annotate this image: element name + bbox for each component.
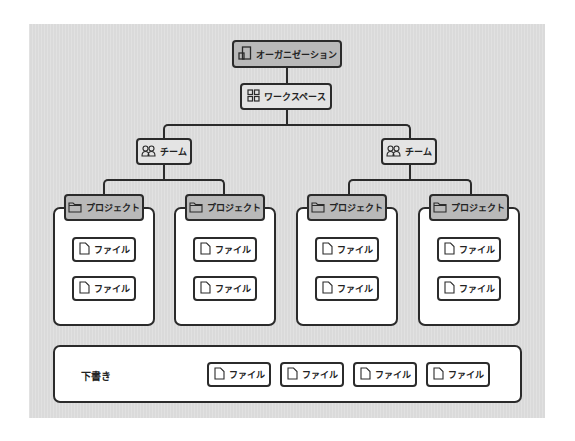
file-label: ファイル: [459, 243, 495, 256]
file-icon: [322, 281, 333, 296]
organization-label: オーガニゼーション: [256, 48, 337, 61]
file-label: ファイル: [337, 243, 373, 256]
file-node[interactable]: ファイル: [315, 237, 379, 262]
file-label: ファイル: [229, 368, 265, 381]
draft-file-node[interactable]: ファイル: [353, 362, 417, 387]
connector-workspace-down: [286, 109, 288, 125]
file-node[interactable]: ファイル: [315, 276, 379, 301]
team-label: チーム: [405, 145, 432, 158]
folder-icon: [311, 201, 325, 215]
file-icon: [79, 242, 90, 257]
file-icon: [287, 367, 298, 382]
project-label: プロジェクト: [207, 201, 261, 214]
file-icon: [433, 367, 444, 382]
file-node[interactable]: ファイル: [437, 237, 501, 262]
file-label: ファイル: [302, 368, 338, 381]
organization-icon: [238, 46, 252, 62]
file-node[interactable]: ファイル: [72, 237, 136, 262]
project-node-1[interactable]: プロジェクト: [64, 194, 144, 221]
project-container-3: [296, 207, 398, 326]
file-label: ファイル: [215, 243, 251, 256]
draft-file-node[interactable]: ファイル: [280, 362, 344, 387]
connector-teams-bar: [163, 124, 411, 140]
file-node[interactable]: ファイル: [193, 276, 257, 301]
file-node[interactable]: ファイル: [437, 276, 501, 301]
file-label: ファイル: [94, 243, 130, 256]
drafts-label: 下書き: [81, 368, 111, 383]
project-node-4[interactable]: プロジェクト: [429, 194, 509, 221]
draft-file-node[interactable]: ファイル: [426, 362, 490, 387]
project-node-3[interactable]: プロジェクト: [307, 194, 387, 221]
file-label: ファイル: [459, 282, 495, 295]
file-label: ファイル: [215, 282, 251, 295]
file-icon: [214, 367, 225, 382]
workspace-label: ワークスペース: [264, 90, 326, 103]
team-label: チーム: [160, 145, 187, 158]
team-node-2[interactable]: チーム: [381, 138, 437, 165]
project-container-2: [174, 207, 276, 326]
grid-icon: [247, 89, 260, 104]
connector-team1-down: [163, 164, 165, 180]
project-container-1: [53, 207, 155, 326]
folder-icon: [433, 201, 447, 215]
connector-org-workspace: [286, 67, 288, 84]
team-icon: [141, 145, 156, 159]
file-icon: [322, 242, 333, 257]
file-icon: [444, 242, 455, 257]
file-icon: [200, 242, 211, 257]
connector-team2-down: [409, 164, 411, 180]
draft-file-node[interactable]: ファイル: [207, 362, 271, 387]
workspace-node[interactable]: ワークスペース: [240, 83, 332, 110]
file-icon: [200, 281, 211, 296]
project-label: プロジェクト: [86, 201, 140, 214]
organization-node[interactable]: オーガニゼーション: [232, 40, 342, 68]
project-label: プロジェクト: [329, 201, 383, 214]
file-icon: [79, 281, 90, 296]
file-node[interactable]: ファイル: [72, 276, 136, 301]
folder-icon: [189, 201, 203, 215]
connector-team2-projects-bar: [348, 179, 472, 194]
file-label: ファイル: [375, 368, 411, 381]
file-label: ファイル: [337, 282, 373, 295]
project-label: プロジェクト: [451, 201, 505, 214]
project-container-4: [418, 207, 520, 326]
file-label: ファイル: [94, 282, 130, 295]
file-icon: [444, 281, 455, 296]
folder-icon: [68, 201, 82, 215]
team-node-1[interactable]: チーム: [136, 138, 192, 165]
team-icon: [386, 145, 401, 159]
file-label: ファイル: [448, 368, 484, 381]
connector-team1-projects-bar: [103, 179, 225, 194]
file-node[interactable]: ファイル: [193, 237, 257, 262]
project-node-2[interactable]: プロジェクト: [185, 194, 265, 221]
file-icon: [360, 367, 371, 382]
